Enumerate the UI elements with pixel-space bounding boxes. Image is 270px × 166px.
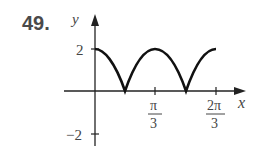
chart-figure: 49. y x 2 −2 π 3 2π 3 [0,0,270,166]
y-axis-label: y [70,11,79,27]
x-axis-label: x [237,94,245,111]
x-tick-label-2pi-den: 3 [211,116,218,131]
curve [95,49,216,91]
problem-number: 49. [22,12,50,35]
x-tick-label-pi-num: π [150,98,157,113]
y-tick-label-neg2: −2 [66,127,82,143]
x-tick-label-pi-den: 3 [150,116,157,131]
y-axis-arrow-icon [91,14,99,26]
y-tick-label-2: 2 [76,42,84,58]
x-tick-label-2pi-num: 2π [207,98,221,113]
